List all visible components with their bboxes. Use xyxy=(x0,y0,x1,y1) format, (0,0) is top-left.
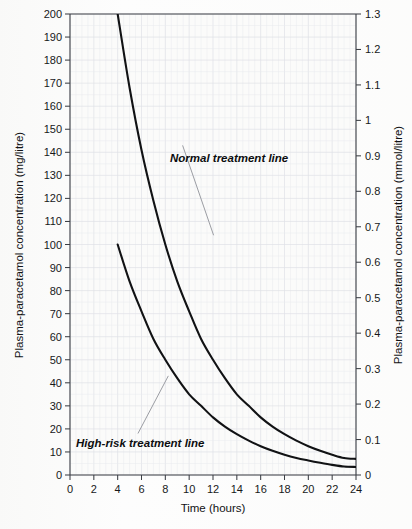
y-axis-left-tick-label: 100 xyxy=(44,239,62,251)
y-axis-right-tick-label: 0.9 xyxy=(365,150,380,162)
x-axis-tick-label: 2 xyxy=(91,483,97,495)
paracetamol-treatment-nomogram: 0102030405060708090100110120130140150160… xyxy=(0,0,412,529)
y-axis-left-tick-label: 180 xyxy=(44,54,62,66)
x-axis-tick-label: 20 xyxy=(302,483,314,495)
y-axis-left-tick-label: 140 xyxy=(44,146,62,158)
y-axis-left-tick-label: 30 xyxy=(50,400,62,412)
y-axis-right-tick-label: 0.8 xyxy=(365,185,380,197)
y-axis-left-tick-label: 200 xyxy=(44,8,62,20)
y-axis-left-tick-label: 70 xyxy=(50,308,62,320)
y-axis-left-tick-label: 90 xyxy=(50,262,62,274)
y-axis-left-tick-label: 120 xyxy=(44,192,62,204)
x-axis-tick-label: 16 xyxy=(255,483,267,495)
y-axis-right-tick-label: 0.5 xyxy=(365,292,380,304)
x-axis-tick-label: 22 xyxy=(326,483,338,495)
x-axis-tick-label: 6 xyxy=(138,483,144,495)
chart-canvas: 0102030405060708090100110120130140150160… xyxy=(0,0,412,529)
y-axis-right-ticks: 00.10.20.30.40.50.60.70.80.911.11.21.3 xyxy=(356,8,380,481)
y-axis-right-title: Plasma-paracetamol concentration (mmol/l… xyxy=(392,126,404,365)
normal-treatment-line-label: Normal treatment line xyxy=(170,152,289,164)
y-axis-right-tick-label: 0.1 xyxy=(365,434,380,446)
y-axis-left-tick-label: 170 xyxy=(44,77,62,89)
y-axis-left-tick-label: 10 xyxy=(50,446,62,458)
x-axis-tick-label: 12 xyxy=(207,483,219,495)
grid-major-group xyxy=(70,14,356,475)
y-axis-left-tick-label: 160 xyxy=(44,100,62,112)
y-axis-left-tick-label: 40 xyxy=(50,377,62,389)
x-axis-tick-label: 4 xyxy=(115,483,121,495)
x-axis-tick-label: 0 xyxy=(67,483,73,495)
y-axis-left-tick-label: 20 xyxy=(50,423,62,435)
x-axis-tick-label: 14 xyxy=(231,483,243,495)
x-axis-ticks: 024681012141618202224 xyxy=(67,475,362,495)
x-axis-tick-label: 10 xyxy=(183,483,195,495)
y-axis-right-tick-label: 1.1 xyxy=(365,79,380,91)
y-axis-right-tick-label: 1.3 xyxy=(365,8,380,20)
y-axis-left-tick-label: 0 xyxy=(56,469,62,481)
y-axis-left-tick-label: 50 xyxy=(50,354,62,366)
y-axis-left-tick-label: 60 xyxy=(50,331,62,343)
y-axis-right-tick-label: 1.2 xyxy=(365,43,380,55)
x-axis-tick-label: 18 xyxy=(278,483,290,495)
y-axis-right-tick-label: 0.6 xyxy=(365,256,380,268)
y-axis-left-tick-label: 80 xyxy=(50,285,62,297)
y-axis-right-tick-label: 0 xyxy=(365,469,371,481)
high-risk-treatment-line-label: High-risk treatment line xyxy=(76,437,205,449)
y-axis-right-tick-label: 1 xyxy=(365,114,371,126)
y-axis-left-title: Plasma-paracetamol concentration (mg/lit… xyxy=(13,132,25,358)
x-axis-tick-label: 8 xyxy=(162,483,168,495)
y-axis-left-tick-label: 150 xyxy=(44,123,62,135)
y-axis-left-tick-label: 190 xyxy=(44,31,62,43)
y-axis-left-tick-label: 110 xyxy=(44,215,62,227)
y-axis-left-tick-label: 130 xyxy=(44,169,62,181)
y-axis-right-tick-label: 0.2 xyxy=(365,398,380,410)
y-axis-right-tick-label: 0.4 xyxy=(365,327,380,339)
y-axis-right-tick-label: 0.3 xyxy=(365,363,380,375)
y-axis-right-tick-label: 0.7 xyxy=(365,221,380,233)
x-axis-title: Time (hours) xyxy=(181,502,246,514)
y-axis-left-ticks: 0102030405060708090100110120130140150160… xyxy=(44,8,70,481)
x-axis-tick-label: 24 xyxy=(350,483,362,495)
